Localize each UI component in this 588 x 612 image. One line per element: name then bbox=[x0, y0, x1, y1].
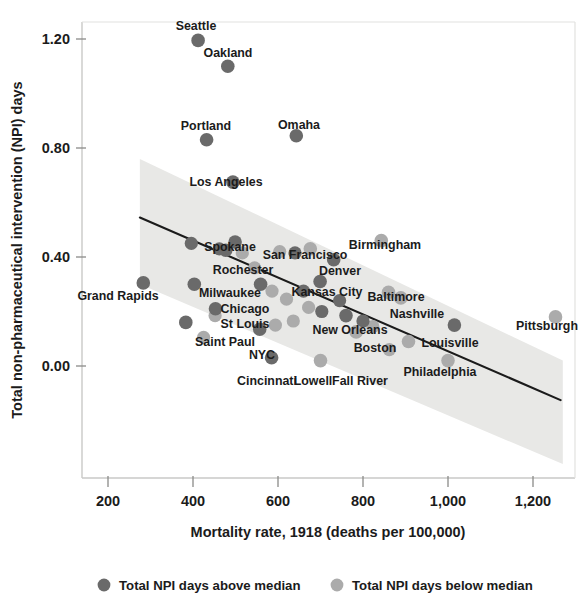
point-label-portland: Portland bbox=[181, 119, 231, 133]
legend-marker-above-median bbox=[98, 579, 111, 592]
data-point-saint-paul bbox=[179, 316, 193, 330]
x-tick-label: 400 bbox=[181, 493, 205, 509]
x-tick-label: 1,000 bbox=[430, 493, 466, 509]
point-label-boston: Boston bbox=[354, 341, 397, 355]
point-label-cincinnati: Cincinnati bbox=[237, 374, 297, 388]
legend-label-below-median: Total NPI days below median bbox=[352, 578, 533, 593]
legend-label-above-median: Total NPI days above median bbox=[119, 578, 301, 593]
point-label-pittsburgh: Pittsburgh bbox=[516, 319, 578, 333]
point-label-chicago: Chicago bbox=[221, 302, 270, 316]
point-label-lowell: Lowell bbox=[294, 374, 333, 388]
point-label-nashville: Nashville bbox=[390, 307, 445, 321]
y-tick-label: 0.40 bbox=[42, 249, 70, 265]
point-label-kansas-city: Kansas City bbox=[292, 285, 363, 299]
data-point-louisville bbox=[448, 318, 462, 332]
data-point bbox=[315, 305, 328, 318]
data-point-grand-rapids bbox=[137, 276, 151, 290]
data-point bbox=[302, 301, 315, 314]
point-label-seattle: Seattle bbox=[176, 19, 217, 33]
x-tick-label: 1,200 bbox=[515, 493, 551, 509]
data-point-portland bbox=[200, 133, 214, 147]
point-label-saint-paul: Saint Paul bbox=[195, 335, 255, 349]
scatter-plot-svg: 0.000.400.801.20 2004006008001,0001,200 … bbox=[0, 0, 588, 612]
y-tick-label: 0.80 bbox=[42, 140, 70, 156]
point-label-new-orleans: New Orleans bbox=[312, 323, 387, 337]
point-label-birmingham: Birmingham bbox=[349, 238, 421, 252]
point-label-grand-rapids: Grand Rapids bbox=[77, 289, 158, 303]
point-label-philadelphia: Philadelphia bbox=[404, 365, 477, 379]
point-label-fall-river: Fall River bbox=[332, 374, 388, 388]
x-axis-title: Mortality rate, 1918 (deaths per 100,000… bbox=[191, 524, 466, 540]
point-label-san-francisco: San Francisco bbox=[263, 248, 348, 262]
point-label-omaha: Omaha bbox=[278, 118, 320, 132]
data-point-lowell bbox=[314, 354, 328, 368]
data-point bbox=[265, 285, 278, 298]
data-point-oakland bbox=[221, 60, 235, 74]
y-axis-title: Total non-pharmaceutical intervention (N… bbox=[9, 81, 25, 418]
point-label-nyc: NYC bbox=[249, 348, 275, 362]
chart-figure: 0.000.400.801.20 2004006008001,0001,200 … bbox=[0, 0, 588, 612]
data-point-philadelphia bbox=[402, 335, 416, 349]
x-tick-label: 600 bbox=[266, 493, 290, 509]
y-tick-label: 1.20 bbox=[42, 31, 70, 47]
legend-marker-below-median bbox=[331, 579, 344, 592]
data-point bbox=[185, 237, 198, 250]
y-tick-label: 0.00 bbox=[42, 358, 70, 374]
point-label-st-louis: St Louis bbox=[221, 317, 270, 331]
point-label-spokane: Spokane bbox=[204, 240, 256, 254]
data-point-new-orleans bbox=[339, 309, 353, 323]
x-tick-label: 800 bbox=[351, 493, 375, 509]
x-tick-label: 200 bbox=[96, 493, 120, 509]
point-label-baltimore: Baltimore bbox=[367, 290, 424, 304]
point-label-rochester: Rochester bbox=[213, 263, 274, 277]
point-label-louisville: Louisville bbox=[421, 336, 478, 350]
point-label-denver: Denver bbox=[319, 264, 361, 278]
data-point bbox=[287, 314, 300, 327]
point-label-milwaukee: Milwaukee bbox=[199, 286, 261, 300]
data-point bbox=[269, 319, 282, 332]
point-label-los-angeles: Los Angeles bbox=[189, 175, 262, 189]
point-label-oakland: Oakland bbox=[204, 46, 253, 60]
